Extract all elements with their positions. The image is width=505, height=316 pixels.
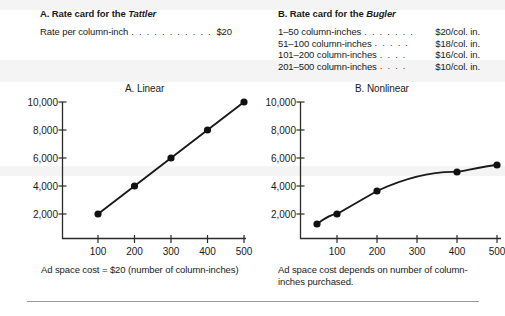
panel-b-rate-card-rows: 1–50 column-inches . . . . . . . $20/col… [278,26,480,72]
chart-a-svg: 10,000 8,000 6,000 4,000 2,000 [0,92,253,257]
chart-b-ytick-label: 4,000 [271,181,296,192]
panel-b-card-title: B. Rate card for the Bugler [278,8,396,19]
chart-b-data-point [453,168,460,175]
rate-row-leader: . . . . . . . [364,26,415,38]
chart-a-xtick-labels: 100 200 300 400 500 [90,246,253,257]
chart-a-xtick-label: 500 [236,246,253,257]
chart-b-nonlinear: 10,000 8,000 6,000 4,000 2,000 [253,92,505,257]
panel-a-card-title-prefix: Rate card for the [52,8,126,19]
rate-row-value: $16/col. in. [418,49,480,61]
chart-a-xtick-label: 400 [199,246,216,257]
chart-b-xtick-label: 200 [369,246,386,257]
rate-card-row: 201–500 column-inches . . . . $10/col. i… [278,61,480,73]
chart-b-data-point [493,161,500,168]
panel-a-card-letter: A. [40,8,49,19]
panel-b-card-title-prefix: Rate card for the [290,8,364,19]
chart-b-ytick-label: 6,000 [271,153,296,164]
chart-b-data-curve [317,165,497,224]
rate-row-label: Rate per column-inch [40,26,128,38]
chart-b-xtick-label: 100 [329,246,346,257]
chart-a-xtick-label: 100 [90,246,107,257]
bottom-divider [27,301,479,302]
chart-b-xtick-label: 400 [449,246,466,257]
rate-row-value: $10/col. in. [418,61,480,73]
chart-a-ytick-label: 6,000 [33,153,58,164]
rate-row-leader: . . . . . [375,37,415,49]
panel-a-rate-card-rows: Rate per column-inch . . . . . . . . . .… [40,26,232,38]
panel-b-card-title-italic: Bugler [366,8,396,19]
chart-b-xtick-label: 300 [409,246,426,257]
panel-b-caption: Ad space cost depends on number of colum… [278,264,488,288]
chart-b-svg: 10,000 8,000 6,000 4,000 2,000 [253,92,505,257]
chart-b-data-point [333,210,340,217]
panel-a-card-title: A. Rate card for the Tattler [40,8,156,19]
panel-a-caption: Ad space cost = $20 (number of column-in… [41,264,241,276]
rate-row-leader: . . . . [380,60,415,72]
rate-row-label: 101–200 column-inches [278,49,377,61]
rate-row-label: 51–100 column-inches [278,38,372,50]
rate-card-row: 101–200 column-inches . . . . $16/col. i… [278,49,480,61]
chart-a-data-point [240,98,247,105]
chart-a-ytick-label: 4,000 [33,181,58,192]
chart-b-ytick-labels: 10,000 8,000 6,000 4,000 2,000 [265,97,296,220]
chart-a-ytick-labels: 10,000 8,000 6,000 4,000 2,000 [27,97,58,220]
chart-a-ytick-label: 8,000 [33,125,58,136]
chart-b-xtick-labels: 100 200 300 400 500 [329,246,505,257]
rate-row-label: 201–500 column-inches [278,61,377,73]
rate-row-leader: . . . . . . . . . . . . . [131,26,213,38]
chart-a-data-point [94,210,101,217]
rate-row-label: 1–50 column-inches [278,26,361,38]
rate-row-value: $20/col. in. [418,26,480,38]
chart-a-data-point [204,126,211,133]
chart-b-data-points [313,161,500,227]
chart-b-xtick-label: 500 [489,246,505,257]
chart-a-ytick-label: 10,000 [27,97,58,108]
rate-row-leader: . . . . [380,49,415,61]
chart-a-linear: 10,000 8,000 6,000 4,000 2,000 [0,92,253,257]
rate-card-row: 1–50 column-inches . . . . . . . $20/col… [278,26,480,38]
chart-a-data-point [167,154,174,161]
rate-card-row: 51–100 column-inches . . . . . $18/col. … [278,38,480,50]
rate-row-value: $20 [216,26,232,38]
panel-b-card-letter: B. [278,8,287,19]
chart-b-ytick-label: 2,000 [271,209,296,220]
panel-a-card-title-italic: Tattler [128,8,156,19]
chart-a-data-point [131,182,138,189]
chart-b-ytick-label: 10,000 [265,97,296,108]
figure-page: A. Rate card for the Tattler Rate per co… [0,0,505,316]
chart-a-xtick-label: 300 [163,246,180,257]
chart-b-ytick-label: 8,000 [271,125,296,136]
chart-b-data-point [313,220,320,227]
chart-a-xtick-label: 200 [126,246,143,257]
chart-b-data-point [373,187,380,194]
chart-a-ytick-label: 2,000 [33,209,58,220]
rate-card-row: Rate per column-inch . . . . . . . . . .… [40,26,232,38]
rate-row-value: $18/col. in. [418,38,480,50]
